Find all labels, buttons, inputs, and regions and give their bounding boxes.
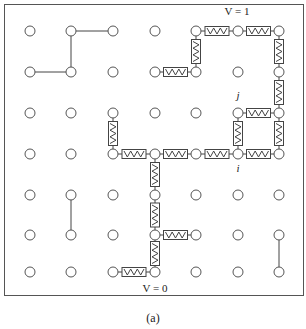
resistor <box>151 195 160 235</box>
resistor <box>192 31 201 72</box>
node-r6-c4 <box>191 267 201 277</box>
resistor <box>113 150 155 159</box>
resistor-network-diagram: V = 1 V = 0 j i <box>0 0 306 310</box>
node-j-label: j <box>234 89 239 101</box>
node-r4-c0 <box>25 190 35 200</box>
lattice-nodes <box>25 26 284 277</box>
node-r0-c3 <box>150 26 160 36</box>
resistor <box>196 27 238 36</box>
resistor <box>275 113 284 154</box>
node-r0-c1 <box>66 26 76 36</box>
node-r3-c6 <box>274 149 284 159</box>
node-r5-c4 <box>191 230 201 240</box>
node-r0-c6 <box>274 26 284 36</box>
resistor <box>151 154 160 195</box>
node-r2-c0 <box>25 108 35 118</box>
node-r4-c6 <box>274 190 284 200</box>
node-r5-c6 <box>274 230 284 240</box>
resistor <box>109 113 118 154</box>
top-voltage-label: V = 1 <box>225 5 250 17</box>
node-r3-c5 <box>233 149 243 159</box>
node-r1-c3 <box>150 67 160 77</box>
node-r6-c0 <box>25 267 35 277</box>
resistor <box>155 150 196 159</box>
node-r2-c6 <box>274 108 284 118</box>
node-r3-c2 <box>108 149 118 159</box>
resistor <box>196 150 238 159</box>
resistor <box>275 31 284 72</box>
node-r1-c0 <box>25 67 35 77</box>
node-r1-c1 <box>66 67 76 77</box>
resistor <box>113 268 155 277</box>
node-r0-c0 <box>25 26 35 36</box>
node-r5-c2 <box>108 230 118 240</box>
resistor <box>234 113 243 154</box>
node-r3-c4 <box>191 149 201 159</box>
node-r5-c5 <box>233 230 243 240</box>
resistor <box>238 150 279 159</box>
node-r5-c0 <box>25 230 35 240</box>
node-r1-c5 <box>233 67 243 77</box>
node-r1-c2 <box>108 67 118 77</box>
resistor <box>238 109 279 118</box>
node-r4-c3 <box>150 190 160 200</box>
node-r4-c5 <box>233 190 243 200</box>
resistor <box>275 72 284 113</box>
node-r0-c4 <box>191 26 201 36</box>
node-r2-c3 <box>150 108 160 118</box>
node-r3-c0 <box>25 149 35 159</box>
node-r5-c1 <box>66 230 76 240</box>
node-r5-c3 <box>150 230 160 240</box>
node-r4-c1 <box>66 190 76 200</box>
node-r4-c2 <box>108 190 118 200</box>
resistor <box>151 235 160 272</box>
node-r6-c5 <box>233 267 243 277</box>
node-r2-c2 <box>108 108 118 118</box>
resistor <box>155 68 196 77</box>
figure-caption: (a) <box>0 311 306 326</box>
node-r2-c1 <box>66 108 76 118</box>
node-r1-c6 <box>274 67 284 77</box>
node-r2-c4 <box>191 108 201 118</box>
bottom-voltage-label: V = 0 <box>143 282 168 294</box>
resistor <box>155 231 196 240</box>
node-r3-c3 <box>150 149 160 159</box>
node-r0-c5 <box>233 26 243 36</box>
node-r2-c5 <box>233 108 243 118</box>
node-r4-c4 <box>191 190 201 200</box>
node-r6-c1 <box>66 267 76 277</box>
node-r1-c4 <box>191 67 201 77</box>
node-r6-c2 <box>108 267 118 277</box>
node-r0-c2 <box>108 26 118 36</box>
resistor <box>238 27 279 36</box>
node-i-label: i <box>236 162 239 174</box>
node-r6-c3 <box>150 267 160 277</box>
node-r6-c6 <box>274 267 284 277</box>
node-r3-c1 <box>66 149 76 159</box>
